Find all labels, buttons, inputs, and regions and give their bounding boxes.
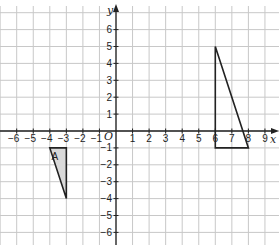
- x-tick-label: −6: [8, 133, 20, 144]
- x-tick-label: 6: [213, 133, 219, 144]
- x-tick-label: −3: [58, 133, 70, 144]
- y-tick-label: 6: [106, 24, 112, 35]
- x-tick-label: 4: [179, 133, 185, 144]
- x-tick-label: 9: [262, 133, 268, 144]
- y-tick-label: 2: [106, 92, 112, 103]
- x-tick-label: −5: [25, 133, 37, 144]
- y-tick-label: −6: [101, 227, 113, 238]
- y-tick-label: 3: [106, 75, 112, 86]
- x-axis-label: x: [270, 133, 277, 146]
- x-tick-label: 5: [196, 133, 202, 144]
- x-tick-label: 7: [229, 133, 235, 144]
- shape-label-a: A: [51, 151, 58, 162]
- x-tick-label: 8: [246, 133, 252, 144]
- x-tick-label: 3: [163, 133, 169, 144]
- origin-label: O: [104, 130, 113, 143]
- y-tick-label: −2: [101, 159, 113, 170]
- y-axis-label: y: [106, 4, 114, 17]
- y-tick-label: 4: [106, 58, 112, 69]
- y-tick-label: 5: [106, 41, 112, 52]
- x-tick-label: −2: [74, 133, 86, 144]
- y-tick-label: −3: [101, 176, 113, 187]
- x-tick-label: 1: [130, 133, 136, 144]
- y-tick-label: −1: [101, 142, 113, 153]
- y-tick-label: −4: [101, 193, 113, 204]
- grid-svg: A−6−5−4−3−2−1123456789654321−1−2−3−4−5−6…: [0, 0, 279, 245]
- y-tick-label: −5: [101, 210, 113, 221]
- y-axis-arrow-icon: [113, 4, 119, 12]
- y-tick-label: 1: [106, 109, 112, 120]
- x-tick-label: 2: [146, 133, 152, 144]
- x-tick-label: −4: [41, 133, 53, 144]
- coordinate-grid: A−6−5−4−3−2−1123456789654321−1−2−3−4−5−6…: [0, 0, 279, 245]
